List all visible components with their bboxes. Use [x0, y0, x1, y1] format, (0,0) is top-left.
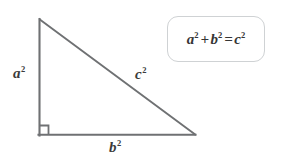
- formula-b-base: b: [211, 31, 219, 47]
- side-label-a-base: a: [13, 65, 21, 81]
- formula-equals-operator: =: [224, 31, 233, 47]
- side-label-c-base: c: [135, 66, 142, 82]
- side-label-b-exponent: 2: [117, 138, 121, 148]
- side-label-b-base: b: [109, 139, 117, 155]
- side-label-b: b2: [109, 140, 121, 155]
- side-label-a-exponent: 2: [21, 64, 25, 74]
- right-angle-marker-icon: [40, 126, 49, 135]
- formula-c-exponent: 2: [241, 30, 245, 40]
- formula-callout-box: a2+b2=c2: [167, 16, 265, 62]
- side-label-a: a2: [13, 66, 25, 81]
- side-label-c-exponent: 2: [142, 65, 146, 75]
- formula-plus-operator: +: [200, 31, 209, 47]
- formula-text: a2+b2=c2: [187, 32, 246, 47]
- formula-b-exponent: 2: [218, 30, 222, 40]
- pythagorean-theorem-figure: a2 c2 b2 a2+b2=c2: [0, 0, 282, 164]
- side-label-c: c2: [135, 67, 146, 82]
- formula-a-exponent: 2: [194, 30, 198, 40]
- formula-c-base: c: [234, 31, 241, 47]
